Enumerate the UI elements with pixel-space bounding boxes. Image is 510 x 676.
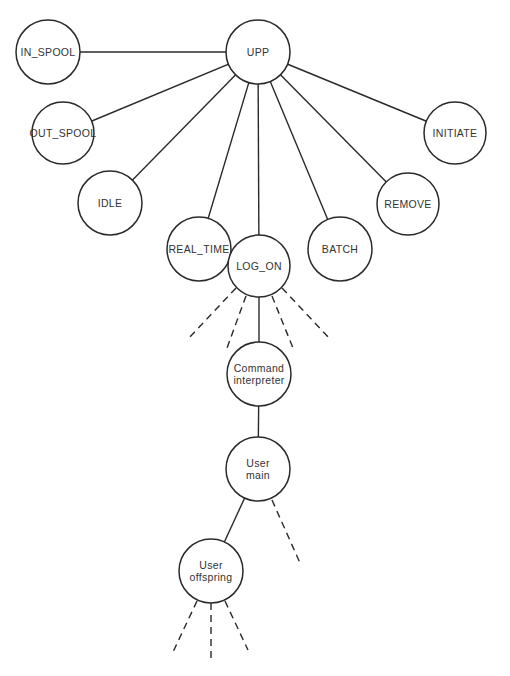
node-user-offspring-line2: offspring [190, 571, 233, 583]
node-upp-label: UPP [247, 46, 270, 58]
node-idle-label: IDLE [98, 197, 123, 209]
node-log-on: LOG_ON [236, 260, 282, 272]
node-batch-label: BATCH [322, 243, 358, 255]
dashed-edge-user_offspring-7 [225, 601, 248, 650]
dashed-edge-log_on-0 [188, 288, 236, 339]
node-user-main: User main [246, 457, 270, 481]
node-command-interpreter-line2: interpreter [233, 374, 284, 386]
node-idle: IDLE [98, 197, 123, 209]
node-command-interpreter: Command interpreter [233, 362, 284, 386]
node-real-time: REAL_TIME [168, 243, 229, 255]
node-log-on-label: LOG_ON [236, 260, 282, 272]
node-remove: REMOVE [384, 198, 431, 210]
node-initiate-label: INITIATE [433, 127, 478, 139]
dashed-edge-log_on-2 [272, 296, 293, 348]
node-real-time-label: REAL_TIME [168, 243, 229, 255]
node-command-interpreter-line1: Command [233, 362, 284, 374]
node-user-main-line1: User [246, 457, 270, 469]
dashed-edge-user_offspring-5 [173, 601, 197, 652]
node-upp: UPP [247, 46, 270, 58]
node-user-offspring-line1: User [190, 559, 233, 571]
node-remove-label: REMOVE [384, 198, 431, 210]
node-user-main-line2: main [246, 469, 270, 481]
dashed-edge-user_main-4 [272, 500, 300, 563]
nodes-layer [16, 20, 486, 603]
node-in-spool-label: IN_SPOOL [21, 46, 76, 58]
dashed-edge-log_on-3 [282, 288, 330, 339]
node-out-spool: OUT_SPOOL [30, 127, 97, 139]
node-user-offspring: User offspring [190, 559, 233, 583]
node-batch: BATCH [322, 243, 358, 255]
node-in-spool: IN_SPOOL [21, 46, 76, 58]
dashed-edge-log_on-1 [227, 296, 246, 348]
node-initiate: INITIATE [433, 127, 478, 139]
process-tree-diagram [0, 0, 510, 676]
node-out-spool-label: OUT_SPOOL [30, 127, 97, 139]
